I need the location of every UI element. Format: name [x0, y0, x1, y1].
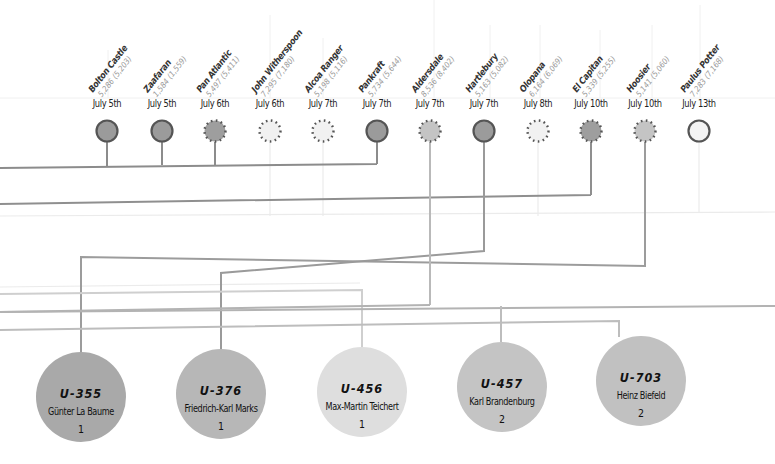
ship-date: July 7th	[458, 97, 511, 109]
ship-marker-icon[interactable]	[313, 121, 334, 142]
uboat-node[interactable]: U-355Günter La Baume1	[36, 352, 126, 442]
route-line-group-a	[0, 142, 377, 168]
ship-date: July 6th	[189, 97, 242, 109]
ship-date: July 10th	[619, 97, 672, 109]
uboat-id: U-703	[596, 370, 686, 385]
uboat-commander: Karl Brandenburg	[462, 396, 543, 407]
ship-marker-icon[interactable]	[152, 121, 173, 142]
uboat-sinking-count: 1	[36, 423, 126, 435]
uboat-id: U-355	[36, 386, 126, 401]
ship-markers	[97, 121, 710, 142]
uboat-commander: Friedrich-Karl Marks	[181, 403, 262, 414]
ship-marker-icon[interactable]	[474, 121, 495, 142]
route-line-u376	[221, 142, 484, 349]
ship-date: July 8th	[512, 97, 565, 109]
uboat-id: U-376	[176, 383, 266, 398]
ship-marker-icon[interactable]	[581, 121, 602, 142]
uboat-id: U-457	[457, 376, 547, 391]
ship-date: July 7th	[297, 97, 350, 109]
ship-marker-icon[interactable]	[528, 121, 549, 142]
ship-marker-icon[interactable]	[635, 121, 656, 142]
uboat-commander: Max-Martin Teichert	[322, 401, 403, 412]
ship-date: July 6th	[244, 97, 297, 109]
connection-lines	[0, 142, 775, 352]
uboat-commander: Heinz Biefeld	[601, 390, 682, 401]
uboat-sinking-count: 2	[457, 413, 547, 425]
ship-date: July 5th	[136, 97, 189, 109]
ship-date: July 13th	[673, 97, 726, 109]
ship-date: July 7th	[351, 97, 404, 109]
ship-marker-icon[interactable]	[260, 121, 281, 142]
route-line-u456	[0, 290, 362, 347]
ship-marker-icon[interactable]	[367, 121, 388, 142]
uboat-sinking-count: 2	[596, 407, 686, 419]
uboat-node[interactable]: U-703Heinz Biefeld2	[596, 336, 686, 426]
ship-date: July 10th	[565, 97, 618, 109]
uboat-sinking-count: 1	[317, 418, 407, 430]
uboat-node[interactable]: U-456Max-Martin Teichert1	[317, 347, 407, 437]
ship-marker-icon[interactable]	[420, 121, 441, 142]
ship-marker-icon[interactable]	[205, 121, 226, 142]
route-line-u703	[0, 321, 619, 337]
uboat-id: U-456	[317, 381, 407, 396]
uboat-sinking-count: 1	[176, 420, 266, 432]
uboat-node[interactable]: U-457Karl Brandenburg2	[457, 342, 547, 432]
ship-date: July 5th	[81, 97, 134, 109]
uboat-node[interactable]: U-376Friedrich-Karl Marks1	[176, 349, 266, 439]
route-line-el-capitan	[0, 142, 591, 204]
uboat-commander: Günter La Baume	[41, 406, 122, 417]
ship-marker-icon[interactable]	[689, 121, 710, 142]
ship-marker-icon[interactable]	[97, 121, 118, 142]
ship-date: July 7th	[404, 97, 457, 109]
ship-drop-lines-faint	[0, 142, 775, 287]
